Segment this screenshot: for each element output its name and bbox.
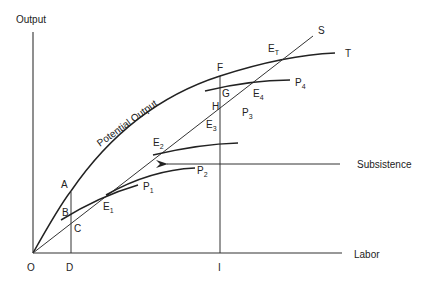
y-axis-label: Output <box>16 14 46 25</box>
curve-t-label: T <box>345 48 351 59</box>
p4-label: P4 <box>295 77 306 90</box>
x-mark-d: D <box>66 262 73 273</box>
point-e2-label: E2 <box>153 137 164 150</box>
subsistence-line-s <box>33 36 313 253</box>
point-b-label: B <box>62 207 69 218</box>
origin-label: O <box>27 262 35 273</box>
point-e4-label: E4 <box>253 88 264 101</box>
point-e1-label: E1 <box>103 201 114 214</box>
production-curve-p1 <box>61 185 138 220</box>
production-curve-p4 <box>205 80 290 91</box>
x-axis-label: Labor <box>354 249 380 260</box>
point-e3-label: E3 <box>206 119 217 132</box>
point-et-label: ET <box>268 43 280 56</box>
p3-label: P3 <box>242 107 253 120</box>
point-h-label: H <box>212 101 219 112</box>
potential-output-label: Potential Output <box>95 97 160 148</box>
p1-label: P1 <box>143 181 154 194</box>
line-s-label: S <box>318 25 325 36</box>
subsistence-label: Subsistence <box>357 159 412 170</box>
production-curve-p3 <box>153 143 238 155</box>
x-mark-i: I <box>218 262 221 273</box>
point-g-label: G <box>222 88 230 99</box>
p2-label: P2 <box>197 165 208 178</box>
point-c-label: C <box>74 223 81 234</box>
point-f-label: F <box>217 62 223 73</box>
point-a-label: A <box>61 179 68 190</box>
diagram-canvas: Output Labor O D I T Potential Output S … <box>0 0 426 284</box>
